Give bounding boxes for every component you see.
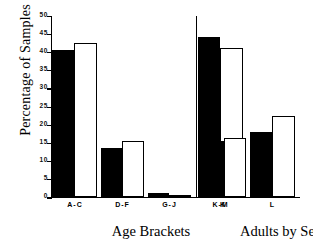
y-tick-label-40: 40 [40, 47, 48, 54]
bar-filled-k [202, 141, 224, 197]
bar-filled-a-c [52, 50, 74, 197]
category-label-g-j: G-J [148, 201, 191, 208]
y-tick-label-10: 10 [40, 156, 48, 163]
bar-open-l [272, 116, 295, 197]
group-separator [196, 16, 197, 198]
y-tick-label-50: 50 [40, 11, 48, 18]
y-tick-label-45: 45 [40, 29, 48, 36]
y-tick-label-5: 5 [44, 174, 48, 181]
bar-open-a-c [74, 43, 97, 197]
x-axis-line [51, 197, 300, 198]
y-tick-label-35: 35 [40, 65, 48, 72]
bar-filled-d-f [101, 148, 122, 197]
category-label-d-f: D-F [101, 201, 144, 208]
bar-open-d-f [122, 141, 144, 197]
y-tick-label-0: 0 [44, 192, 48, 199]
bar-filled-l [250, 132, 272, 197]
group-label-adults-by-sex: Adults by Sex [191, 223, 313, 240]
category-label-a-c: A-C [53, 201, 97, 208]
y-tick-label-20: 20 [40, 120, 48, 127]
bar-chart: Percentage of Samples 0 5 10 15 20 25 [0, 0, 313, 245]
y-axis-title: Percentage of Samples [18, 0, 34, 160]
plot-area: 0 5 10 15 20 25 30 35 [51, 16, 300, 198]
category-label-k: K [201, 201, 245, 208]
category-label-l: L [250, 201, 295, 208]
y-tick-label-15: 15 [40, 138, 48, 145]
bar-open-k [224, 138, 246, 197]
bar-filled-g-j [148, 193, 169, 197]
bar-open-g-j [169, 195, 191, 197]
y-tick-label-30: 30 [40, 83, 48, 90]
y-tick-label-25: 25 [40, 102, 48, 109]
